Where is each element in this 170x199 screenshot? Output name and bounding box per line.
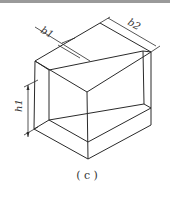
isometric-block-diagram: b1 b2 h1 ( c ) [0, 0, 170, 199]
dimension-b1: b1 [35, 24, 90, 61]
dimension-b2: b2 [100, 16, 160, 52]
figure-caption: ( c ) [76, 169, 98, 182]
block-outline [34, 23, 151, 159]
label-h1: h1 [13, 99, 24, 112]
